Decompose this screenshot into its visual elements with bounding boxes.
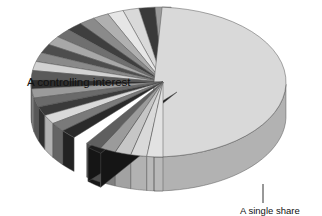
controlling-interest-label: A controlling interest <box>27 76 131 88</box>
pie-slice-side <box>147 156 163 191</box>
pie-slices-layer <box>31 7 286 191</box>
pie-chart-canvas: A controlling interest A single share <box>0 0 322 216</box>
pie-chart-figure: A controlling interest A single share <box>0 0 322 216</box>
single-share-label: A single share <box>240 205 300 216</box>
pie-slice-side <box>63 131 74 172</box>
